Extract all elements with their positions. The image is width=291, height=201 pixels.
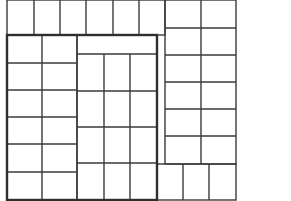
middle-block-region [77,35,157,200]
grid-diagram [0,0,291,201]
bottom-right-region [157,164,236,200]
